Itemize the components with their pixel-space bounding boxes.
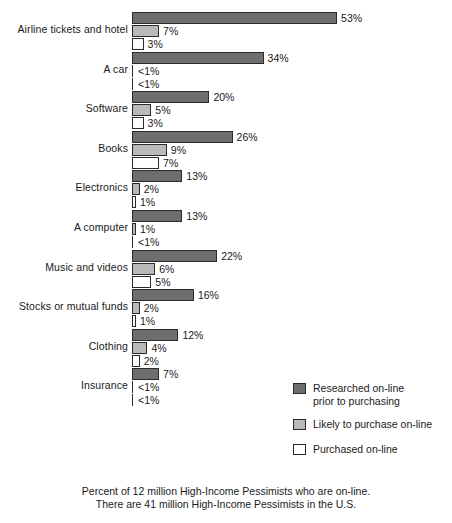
bar-value-label: <1%: [138, 236, 159, 248]
bar-group: A car34%<1%<1%: [0, 52, 452, 92]
category-label: Insurance: [0, 379, 128, 391]
bar-segment: [132, 263, 155, 275]
footnote-line-1: Percent of 12 million High-Income Pessim…: [0, 485, 452, 498]
bar-value-label: 6%: [159, 263, 174, 275]
bar-value-label: 2%: [144, 183, 159, 195]
bar-value-label: 1%: [140, 196, 155, 208]
bar-value-label: 13%: [186, 170, 207, 182]
legend-item[interactable]: Researched on-lineprior to purchasing: [293, 382, 452, 407]
category-label: Software: [0, 102, 128, 114]
bar-segment: [132, 196, 136, 208]
bar-segment: [132, 38, 144, 50]
category-label: Electronics: [0, 181, 128, 193]
bar-segment: [132, 315, 136, 327]
bar-value-label: 7%: [163, 368, 178, 380]
category-label: Music and videos: [0, 261, 128, 273]
bar-segment: [132, 117, 144, 129]
bar-value-label: 16%: [198, 289, 219, 301]
category-label: A car: [0, 63, 128, 75]
bar-value-label: <1%: [138, 65, 159, 77]
bar-value-label: 53%: [341, 12, 362, 24]
category-label: A computer: [0, 221, 128, 233]
bar-segment: [132, 289, 194, 301]
bar-group: Airline tickets and hotel53%7%3%: [0, 12, 452, 52]
legend-label: Likely to purchase on-line: [313, 418, 452, 431]
bar-value-label: <1%: [138, 78, 159, 90]
bar-segment: [132, 223, 136, 235]
bar-segment: [132, 355, 140, 367]
bar-segment: [132, 25, 159, 37]
bar-group: Books26%9%7%: [0, 131, 452, 171]
bar-segment: [132, 131, 233, 143]
bar-segment: [132, 276, 151, 288]
bar-segment: [132, 302, 140, 314]
bar-chart: Airline tickets and hotel53%7%3%A car34%…: [0, 0, 452, 523]
bar-value-label: 5%: [155, 104, 170, 116]
legend-label: Purchased on-line: [313, 443, 452, 456]
legend-label: Researched on-lineprior to purchasing: [313, 382, 452, 407]
legend-swatch-icon: [293, 383, 306, 394]
bar-segment: [132, 157, 159, 169]
category-label: Stocks or mutual funds: [0, 300, 128, 312]
bar-segment: [132, 78, 134, 90]
bar-group: Software20%5%3%: [0, 91, 452, 131]
bar-segment: [132, 381, 134, 393]
bar-value-label: 7%: [163, 25, 178, 37]
chart-legend: Researched on-lineprior to purchasingLik…: [293, 382, 452, 468]
bar-value-label: <1%: [138, 394, 159, 406]
bar-segment: [132, 210, 182, 222]
bar-value-label: 26%: [237, 131, 258, 143]
bar-value-label: 22%: [221, 250, 242, 262]
bar-value-label: 13%: [186, 210, 207, 222]
legend-item[interactable]: Likely to purchase on-line: [293, 418, 452, 432]
bar-segment: [132, 144, 167, 156]
bar-segment: [132, 236, 134, 248]
bar-value-label: <1%: [138, 381, 159, 393]
bar-segment: [132, 65, 134, 77]
category-label: Books: [0, 142, 128, 154]
bar-value-label: 12%: [182, 329, 203, 341]
bar-value-label: 5%: [155, 276, 170, 288]
bar-value-label: 20%: [213, 91, 234, 103]
bar-value-label: 1%: [140, 315, 155, 327]
bar-value-label: 2%: [144, 302, 159, 314]
bar-segment: [132, 52, 264, 64]
bar-segment: [132, 91, 209, 103]
bar-group: Music and videos22%6%5%: [0, 250, 452, 290]
bar-group: Electronics13%2%1%: [0, 170, 452, 210]
bar-value-label: 2%: [144, 355, 159, 367]
bar-value-label: 1%: [140, 223, 155, 235]
bar-group: Stocks or mutual funds16%2%1%: [0, 289, 452, 329]
category-label: Clothing: [0, 340, 128, 352]
bar-value-label: 4%: [151, 342, 166, 354]
bar-segment: [132, 183, 140, 195]
legend-swatch-icon: [293, 419, 306, 430]
legend-swatch-icon: [293, 444, 306, 455]
bar-segment: [132, 12, 337, 24]
bar-segment: [132, 170, 182, 182]
category-label: Airline tickets and hotel: [0, 23, 128, 35]
bar-value-label: 3%: [148, 117, 163, 129]
bar-segment: [132, 250, 217, 262]
bar-value-label: 9%: [171, 144, 186, 156]
bar-value-label: 7%: [163, 157, 178, 169]
bar-value-label: 34%: [268, 52, 289, 64]
bar-segment: [132, 329, 178, 341]
bar-group: Clothing12%4%2%: [0, 329, 452, 369]
bar-segment: [132, 368, 159, 380]
chart-footnote: Percent of 12 million High-Income Pessim…: [0, 485, 452, 511]
bar-segment: [132, 342, 147, 354]
bar-segment: [132, 104, 151, 116]
bar-group: A computer13%1%<1%: [0, 210, 452, 250]
bar-segment: [132, 394, 134, 406]
legend-item[interactable]: Purchased on-line: [293, 443, 452, 457]
footnote-line-2: There are 41 million High-Income Pessimi…: [0, 498, 452, 511]
bar-value-label: 3%: [148, 38, 163, 50]
